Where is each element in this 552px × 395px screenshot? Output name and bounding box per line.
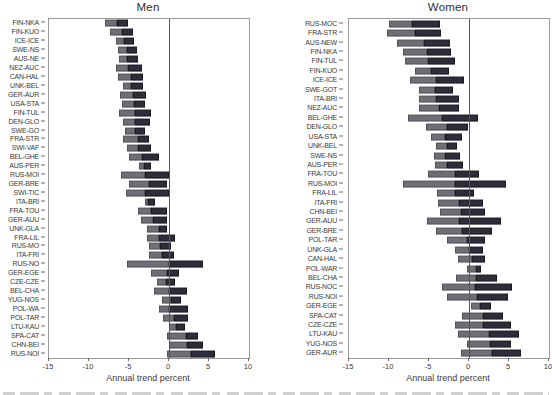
bar-segment-gray [119, 109, 134, 116]
row-label: GER-AUU [8, 215, 39, 222]
y-tick [339, 220, 343, 221]
bar-row [145, 198, 155, 205]
y-tick [339, 333, 343, 334]
bar-row [458, 256, 485, 263]
row-label: GER-EGE [306, 302, 337, 309]
row-label: USA-STA [11, 99, 39, 106]
bar-segment-dark [483, 322, 510, 329]
row-label: GER-AUR [306, 349, 337, 356]
bar-segment-dark [149, 181, 167, 188]
bar-segment-gray [159, 305, 169, 312]
bar-segment-dark [191, 350, 215, 357]
bar-segment-dark [492, 350, 521, 357]
bar-segment-dark [169, 261, 203, 268]
bar-segment-dark [445, 152, 460, 159]
x-axis: -15-10-50510 [348, 358, 548, 372]
row-label: FRA-LIL [312, 189, 337, 196]
row-label: SPA-CAT [11, 331, 39, 338]
row-label: RUS-NOC [306, 283, 337, 290]
bar-segment-dark [131, 82, 142, 89]
bar-segment-gray [408, 114, 442, 121]
bar-row [456, 274, 497, 281]
y-tick [41, 290, 45, 291]
bar-segment-gray [447, 237, 467, 244]
panel-women: Women RUS-MOCFRA-STRAUS-NEWFIN-NKAFIN-TU… [276, 0, 552, 395]
bar-row [169, 323, 185, 330]
bar-row [438, 199, 484, 206]
y-tick [339, 60, 343, 61]
y-tick [41, 22, 45, 23]
y-tick [339, 211, 343, 212]
bar-segment-gray [455, 246, 469, 253]
row-label: POL-WAR [306, 264, 337, 271]
bar-row [105, 20, 128, 27]
bar-segment-gray [436, 227, 462, 234]
bar-segment-gray [149, 252, 162, 259]
row-label: YUG-NOS [306, 339, 337, 346]
bar-row [471, 303, 490, 310]
y-tick [339, 154, 343, 155]
plot-area [48, 18, 250, 359]
bar-row [426, 124, 468, 131]
row-label: GER-BRE [9, 180, 40, 187]
bar-row [403, 180, 506, 187]
y-tick [41, 334, 45, 335]
bar-segment-gray [169, 341, 187, 348]
x-tick [208, 358, 209, 361]
bar-segment-gray [151, 270, 167, 277]
y-tick [339, 286, 343, 287]
bar-row [126, 189, 169, 196]
row-label: FRA-TOU [307, 170, 337, 177]
bar-segment-gray [125, 127, 135, 134]
row-label: ICE-ICE [313, 76, 337, 83]
label-column: RUS-MOCFRA-STRAUS-NEWFIN-NKAFIN-TULFIN-K… [298, 18, 344, 357]
panel-men-title: Men [48, 1, 248, 13]
y-tick [41, 120, 45, 121]
bar-segment-dark [127, 56, 137, 63]
bar-segment-gray [458, 256, 472, 263]
bar-row [410, 77, 464, 84]
y-tick [339, 342, 343, 343]
y-tick [339, 22, 343, 23]
row-label: ITA-FRI [314, 198, 337, 205]
x-tick-label: 10 [244, 362, 252, 371]
bar-segment-gray [427, 218, 459, 225]
row-label: GER-AUU [306, 217, 337, 224]
bar-segment-gray [436, 143, 446, 150]
row-label: ITA-FRI [16, 251, 39, 258]
bar-segment-dark [128, 65, 142, 72]
bar-segment-gray [410, 77, 436, 84]
x-tick [128, 358, 129, 361]
row-label: RUS-MOI [10, 171, 39, 178]
row-label: GER-EGE [8, 269, 39, 276]
bar-segment-dark [483, 312, 503, 319]
bar-segment-dark [461, 209, 485, 216]
bar-row [123, 136, 149, 143]
bar-segment-gray [118, 47, 128, 54]
bar-row [467, 340, 511, 347]
row-label: RUS-MOC [305, 19, 337, 26]
x-tick-label: -15 [43, 362, 54, 371]
bar-segment-dark [442, 114, 478, 121]
bar-segment-dark [490, 340, 511, 347]
panel-women-title: Women [348, 1, 548, 13]
bar-row [447, 237, 485, 244]
bar-segment-dark [169, 305, 188, 312]
bar-segment-dark [462, 227, 492, 234]
bar-segment-gray [127, 261, 169, 268]
bar-segment-gray [415, 67, 431, 74]
row-label: UNK-GLA [307, 245, 337, 252]
row-label: CZE-CZE [10, 278, 39, 285]
y-tick [339, 182, 343, 183]
bar-segment-dark [144, 163, 150, 170]
bar-segment-dark [455, 171, 479, 178]
y-tick [41, 254, 45, 255]
bar-segment-dark [186, 332, 198, 339]
row-label: GER-BRE [307, 226, 338, 233]
bar-row [162, 297, 181, 304]
bar-segment-dark [117, 20, 128, 27]
x-axis: -15-10-50510 [48, 358, 248, 372]
bar-segment-gray [419, 96, 436, 103]
bar-row [138, 207, 167, 214]
bar-row [151, 270, 180, 277]
